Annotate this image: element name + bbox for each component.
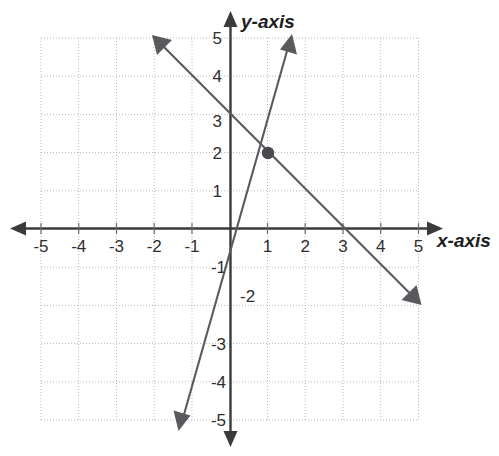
x-tick-label--1: -1	[184, 237, 199, 256]
steep-line-upper-arrowhead	[280, 34, 297, 55]
x-tick-label-4: 4	[376, 237, 385, 256]
x-axis	[10, 222, 443, 236]
x-tick-label--2: -2	[147, 237, 162, 256]
intersection-point-marker	[262, 147, 274, 159]
x-tick-label-5: 5	[414, 237, 423, 256]
steep-line-lower-arrowhead	[174, 411, 191, 432]
y-axis-title: y-axis	[240, 11, 295, 32]
y-tick-label-2: 2	[213, 144, 222, 163]
x-axis-title: x-axis	[436, 230, 491, 251]
y-tick-label--5: -5	[211, 411, 226, 430]
x-axis-left-arrowhead	[10, 222, 26, 236]
y-tick-label-4: 4	[213, 67, 222, 86]
x-tick-label-1: 1	[263, 237, 272, 256]
y-tick-label-1: 1	[213, 182, 222, 201]
y-tick-label--3: -3	[211, 335, 226, 354]
x-tick-label--5: -5	[33, 237, 48, 256]
x-axis-tick-labels: -5 -4 -3 -2 -1 1 2 3 4 5	[33, 237, 423, 256]
y-axis-top-arrowhead	[224, 11, 238, 27]
y-axis-bottom-arrowhead	[224, 431, 238, 447]
y-tick-label-3: 3	[213, 112, 222, 131]
y-tick-label--4: -4	[211, 373, 226, 392]
graph-figure: -5 -4 -3 -2 -1 1 2 3 4 5 5 4 3 2 1 -1 -2…	[0, 0, 499, 456]
coordinate-plane-svg: -5 -4 -3 -2 -1 1 2 3 4 5 5 4 3 2 1 -1 -2…	[0, 0, 499, 456]
y-tick-label--2: -2	[240, 287, 255, 306]
x-tick-label-3: 3	[338, 237, 347, 256]
x-tick-label--3: -3	[109, 237, 124, 256]
x-tick-label--4: -4	[71, 237, 86, 256]
x-tick-label-2: 2	[300, 237, 309, 256]
y-tick-label-5: 5	[213, 29, 222, 48]
